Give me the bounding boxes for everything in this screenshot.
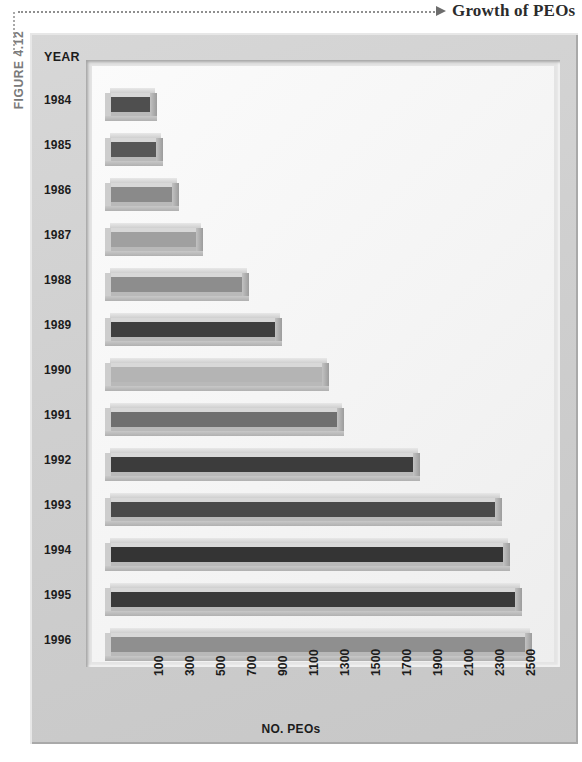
bar-front-face [105, 183, 172, 206]
x-tick-500: 500 [214, 655, 228, 676]
arrow-right-icon [436, 6, 446, 16]
year-label-1996: 1996 [44, 633, 88, 647]
bar-right-face [275, 318, 282, 341]
bar-right-face [156, 138, 163, 161]
bar-bottom-face [105, 296, 249, 301]
year-label-1992: 1992 [44, 453, 88, 467]
year-label-1985: 1985 [44, 138, 88, 152]
year-label-1991: 1991 [44, 408, 88, 422]
bar-bottom-face [105, 161, 163, 166]
x-tick-900: 900 [276, 655, 290, 676]
bar-bottom-face [105, 251, 203, 256]
bar-front-face [105, 363, 322, 386]
year-label-1987: 1987 [44, 228, 88, 242]
figure-title: Growth of PEOs [452, 1, 575, 21]
figure-caption-row: Growth of PEOs [0, 0, 582, 30]
bar-right-face [515, 588, 522, 611]
bar-bottom-face [105, 611, 522, 616]
bar-front-face [105, 588, 515, 611]
year-label-1984: 1984 [44, 93, 88, 107]
bar-front-face [105, 408, 337, 431]
bar-right-face [503, 543, 510, 566]
x-axis-title: NO. PEOs [0, 722, 582, 736]
bar-front-face [105, 228, 196, 251]
x-tick-2500: 2500 [524, 649, 538, 677]
bar-right-face [150, 93, 157, 116]
bar-bottom-face [105, 431, 344, 436]
bar-front-face [105, 93, 150, 116]
x-tick-2300: 2300 [493, 649, 507, 677]
bar-right-face [196, 228, 203, 251]
figure-label-wrapper: FIGURE 4.12 [12, 0, 32, 140]
bar-1989 [105, 313, 282, 346]
x-tick-1700: 1700 [400, 649, 414, 677]
year-label-1994: 1994 [44, 543, 88, 557]
year-label-1989: 1989 [44, 318, 88, 332]
bar-1994 [105, 538, 510, 571]
year-axis-header: YEAR [44, 50, 80, 64]
bar-right-face [337, 408, 344, 431]
bar-1993 [105, 493, 502, 526]
bar-front-face [105, 498, 495, 521]
bar-1991 [105, 403, 344, 436]
bar-front-face [105, 453, 413, 476]
bar-bottom-face [105, 476, 420, 481]
dotted-leader-line [18, 11, 438, 15]
bar-1988 [105, 268, 249, 301]
bar-front-face [105, 543, 503, 566]
x-tick-300: 300 [183, 655, 197, 676]
x-tick-2100: 2100 [462, 649, 476, 677]
bar-right-face [413, 453, 420, 476]
bar-bottom-face [105, 566, 510, 571]
x-tick-1900: 1900 [431, 649, 445, 677]
bar-front-face [105, 318, 275, 341]
bar-bottom-face [105, 206, 179, 211]
bar-bottom-face [105, 116, 157, 121]
bar-front-face [105, 138, 156, 161]
bar-1990 [105, 358, 329, 391]
bar-1986 [105, 178, 179, 211]
x-tick-100: 100 [152, 655, 166, 676]
bar-front-face [105, 273, 242, 296]
year-label-1993: 1993 [44, 498, 88, 512]
bar-1995 [105, 583, 522, 616]
figure-label: FIGURE 4.12 [12, 0, 26, 140]
x-tick-1300: 1300 [338, 649, 352, 677]
bar-right-face [172, 183, 179, 206]
year-label-1990: 1990 [44, 363, 88, 377]
bar-1984 [105, 88, 157, 121]
bar-right-face [322, 363, 329, 386]
bar-bottom-face [105, 521, 502, 526]
x-tick-1100: 1100 [307, 649, 321, 676]
year-label-1986: 1986 [44, 183, 88, 197]
bar-1992 [105, 448, 420, 481]
x-tick-1500: 1500 [369, 649, 383, 677]
bar-1985 [105, 133, 163, 166]
year-label-1995: 1995 [44, 588, 88, 602]
bar-bottom-face [105, 386, 329, 391]
bar-right-face [495, 498, 502, 521]
bar-right-face [242, 273, 249, 296]
bar-1987 [105, 223, 203, 256]
bar-bottom-face [105, 341, 282, 346]
year-label-1988: 1988 [44, 273, 88, 287]
x-tick-700: 700 [245, 655, 259, 676]
